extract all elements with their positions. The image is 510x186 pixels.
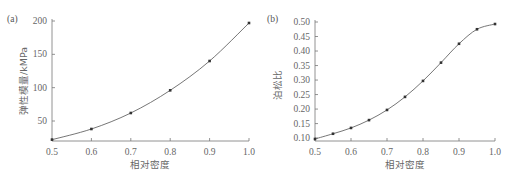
data-point (130, 112, 133, 115)
data-point (350, 127, 353, 130)
y-tick-label: 0.40 (293, 46, 310, 56)
y-tick-label: 0.35 (293, 61, 310, 71)
y-axis-title-b: 泊松比 (272, 70, 283, 100)
data-point (386, 109, 389, 112)
x-tick-label: 0.6 (345, 147, 357, 157)
x-axis-title-b: 相对密度 (385, 159, 425, 170)
series-line (52, 23, 249, 140)
y-tick-label: 200 (33, 16, 48, 26)
x-tick-label: 0.9 (204, 147, 216, 157)
x-tick-label: 0.7 (125, 147, 137, 157)
series-elastic-modulus (51, 22, 251, 141)
data-point (404, 96, 407, 99)
x-tick-label: 0.8 (417, 147, 429, 157)
data-point (440, 61, 443, 64)
chart-poisson-ratio: (b) 0.100.150.200.250.300.350.400.450.50… (267, 14, 501, 170)
data-point (476, 28, 479, 31)
data-point (169, 89, 172, 92)
y-tick-labels-b: 0.100.150.200.250.300.350.400.450.50 (293, 17, 310, 143)
data-point (314, 138, 317, 141)
series-line (315, 24, 495, 139)
data-point (208, 60, 211, 63)
y-tick-label: 0.15 (293, 119, 310, 129)
y-tick-label: 0.45 (293, 32, 310, 42)
data-point (368, 119, 371, 122)
axes-a (52, 19, 249, 141)
y-tick-label: 0.30 (293, 75, 310, 85)
x-tick-labels-a: 0.50.60.70.80.91.0 (46, 147, 255, 157)
data-point (332, 132, 335, 135)
series-poisson-ratio (314, 23, 497, 141)
x-tick-label: 0.7 (381, 147, 393, 157)
y-tick-label: 0.10 (293, 133, 310, 143)
y-tick-label: 0.25 (293, 90, 310, 100)
panel-label-b: (b) (267, 14, 278, 25)
x-tick-label: 0.5 (309, 147, 321, 157)
y-tick-label: 50 (38, 116, 48, 126)
x-tick-label: 1.0 (489, 147, 501, 157)
data-point (248, 22, 251, 25)
x-axis-title-a: 相对密度 (130, 159, 170, 170)
axes-b (315, 20, 495, 141)
y-tick-label: 0.20 (293, 104, 310, 114)
panel-label-a: (a) (7, 14, 18, 25)
y-tick-label: 100 (33, 83, 48, 93)
data-point (90, 128, 93, 131)
x-tick-label: 1.0 (243, 147, 255, 157)
chart-elastic-modulus: (a) 50100150200 0.50.60.70.80.91.0 相对密度 … (7, 14, 255, 170)
x-tick-label: 0.6 (85, 147, 97, 157)
y-tick-label: 150 (33, 49, 48, 59)
x-tick-label: 0.9 (453, 147, 465, 157)
y-tick-label: 0.50 (293, 17, 310, 27)
data-point (458, 42, 461, 45)
y-tick-labels-a: 50100150200 (33, 16, 48, 126)
data-point (422, 80, 425, 83)
data-point (51, 138, 54, 141)
x-tick-label: 0.8 (164, 147, 176, 157)
data-point (494, 23, 497, 26)
figure: (a) 50100150200 0.50.60.70.80.91.0 相对密度 … (0, 0, 510, 186)
x-tick-label: 0.5 (46, 147, 58, 157)
y-axis-title-a: 弹性模量/kMPa (18, 47, 29, 115)
x-tick-labels-b: 0.50.60.70.80.91.0 (309, 147, 501, 157)
